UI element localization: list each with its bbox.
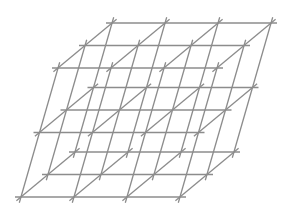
lattice-lines [15,17,277,203]
lattice-diagram [0,0,294,218]
